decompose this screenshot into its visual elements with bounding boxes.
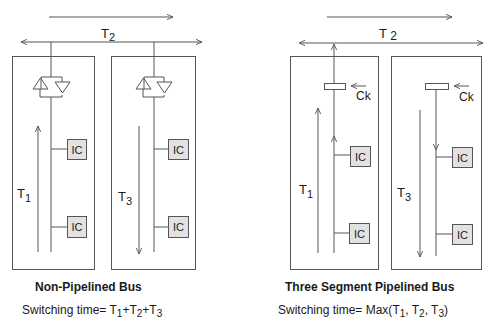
bus-diagram-canvas: IC IC IC IC T2 T1 T3 Non-Pipelined Bus S… (0, 0, 490, 328)
switching-time-formula: Switching time= Max(T1, T2, T3) (278, 303, 448, 319)
ic-box: IC (453, 225, 473, 245)
ic-box: IC (169, 217, 189, 238)
diagram-title: Non-Pipelined Bus (35, 280, 142, 294)
ic-box: IC (350, 224, 370, 244)
ic-box: IC (68, 217, 87, 238)
switching-time-formula: Switching time= T1+T2+T3 (22, 303, 163, 319)
clock-label: Ck (356, 89, 372, 103)
ic-box: IC (351, 147, 371, 167)
ic-label: IC (457, 229, 468, 241)
t2-label: T2 (101, 26, 115, 43)
bidirectional-buffer-icon (136, 77, 172, 97)
ic-box: IC (169, 140, 189, 160)
ic-label: IC (354, 228, 365, 240)
t3-label: T3 (118, 189, 132, 207)
ic-label: IC (72, 144, 83, 156)
bidirectional-buffer-icon (33, 77, 70, 97)
ic-label: IC (173, 221, 184, 233)
t3-label: T3 (397, 185, 411, 203)
ic-label: IC (457, 152, 468, 164)
t2-label: T 2 (379, 26, 397, 43)
ic-box: IC (68, 140, 87, 160)
pipeline-register (325, 84, 346, 90)
ic-label: IC (355, 151, 366, 163)
diagram-title: Three Segment Pipelined Bus (285, 280, 455, 294)
t1-label: T1 (17, 186, 31, 204)
clock-label: Ck (459, 90, 475, 104)
ic-box: IC (453, 148, 473, 168)
ic-label: IC (72, 221, 83, 233)
t1-label: T1 (299, 182, 313, 200)
pipeline-register (426, 84, 449, 90)
ic-label: IC (173, 144, 184, 156)
